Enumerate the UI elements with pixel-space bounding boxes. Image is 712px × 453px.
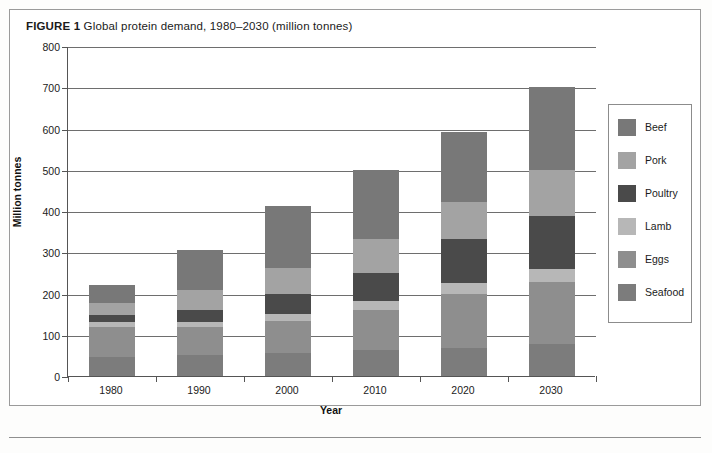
x-axis-tick <box>420 376 421 382</box>
bar-group[interactable] <box>177 46 223 376</box>
bar-group[interactable] <box>89 46 135 376</box>
bar-segment-pork[interactable] <box>441 202 487 240</box>
x-axis-tick <box>244 376 245 382</box>
figure-number: FIGURE 1 <box>26 20 80 32</box>
bar-segment-poultry[interactable] <box>89 315 135 322</box>
bar-segment-lamb[interactable] <box>441 283 487 295</box>
gridline <box>68 130 596 131</box>
y-axis-tick-label: 500 <box>42 165 60 177</box>
gridline <box>68 212 596 213</box>
bar-segment-lamb[interactable] <box>177 322 223 327</box>
bottom-divider <box>9 437 701 438</box>
figure-title: FIGURE 1 Global protein demand, 1980–203… <box>26 20 352 32</box>
legend-item-lamb[interactable]: Lamb <box>618 217 671 235</box>
y-axis-tick <box>62 295 68 296</box>
bar-segment-poultry[interactable] <box>441 239 487 282</box>
bar-segment-pork[interactable] <box>265 268 311 294</box>
bar-group[interactable] <box>265 46 311 376</box>
figure-container: FIGURE 1 Global protein demand, 1980–203… <box>0 0 712 453</box>
bar-segment-lamb[interactable] <box>265 314 311 321</box>
bar-segment-beef[interactable] <box>89 285 135 304</box>
x-axis-tick-label: 2030 <box>511 384 591 396</box>
bar-segment-poultry[interactable] <box>529 216 575 269</box>
x-axis-tick-label: 1980 <box>71 384 151 396</box>
bar-segment-pork[interactable] <box>89 303 135 315</box>
bar-segment-lamb[interactable] <box>89 322 135 326</box>
legend-swatch-icon <box>618 152 636 169</box>
legend-label: Eggs <box>645 253 669 265</box>
bar-segment-poultry[interactable] <box>353 273 399 301</box>
bar-group[interactable] <box>353 46 399 376</box>
x-axis-tick <box>508 376 509 382</box>
legend-label: Beef <box>645 121 667 133</box>
x-axis-tick <box>156 376 157 382</box>
y-axis-tick-label: 600 <box>42 124 60 136</box>
bar-segment-poultry[interactable] <box>265 294 311 314</box>
x-axis-tick-label: 2000 <box>247 384 327 396</box>
y-axis-tick <box>62 171 68 172</box>
y-axis-tick-labels: 0100200300400500600700800 <box>22 47 60 377</box>
legend-label: Seafood <box>645 286 684 298</box>
legend-swatch-icon <box>618 284 636 301</box>
gridline <box>68 171 596 172</box>
bar-segment-eggs[interactable] <box>353 310 399 350</box>
y-axis-tick <box>62 336 68 337</box>
bar-segment-beef[interactable] <box>353 170 399 239</box>
bar-segment-beef[interactable] <box>177 250 223 290</box>
legend-swatch-icon <box>618 185 636 202</box>
x-axis-tick-label: 1990 <box>159 384 239 396</box>
bar-segment-seafood[interactable] <box>529 344 575 376</box>
legend-item-eggs[interactable]: Eggs <box>618 250 669 268</box>
bar-segment-seafood[interactable] <box>441 348 487 376</box>
y-axis-tick-label: 400 <box>42 206 60 218</box>
y-axis-tick-label: 200 <box>42 289 60 301</box>
bar-segment-lamb[interactable] <box>529 269 575 282</box>
bar-segment-poultry[interactable] <box>177 310 223 322</box>
x-axis-tick <box>332 376 333 382</box>
gridline <box>68 47 596 48</box>
y-axis-tick-label: 100 <box>42 330 60 342</box>
bar-segment-seafood[interactable] <box>353 350 399 376</box>
legend-label: Pork <box>645 154 667 166</box>
gridline <box>68 88 596 89</box>
legend-item-seafood[interactable]: Seafood <box>618 283 684 301</box>
bar-group[interactable] <box>529 46 575 376</box>
y-axis-tick-label: 0 <box>54 371 60 383</box>
y-axis-tick <box>62 253 68 254</box>
bar-segment-seafood[interactable] <box>89 357 135 376</box>
y-axis-tick <box>62 88 68 89</box>
legend-swatch-icon <box>618 251 636 268</box>
x-axis-tick-label: 2010 <box>335 384 415 396</box>
bar-segment-pork[interactable] <box>353 239 399 273</box>
bar-segment-seafood[interactable] <box>177 355 223 376</box>
bar-segment-lamb[interactable] <box>353 301 399 310</box>
legend-swatch-icon <box>618 218 636 235</box>
y-axis-tick <box>62 130 68 131</box>
y-axis-tick-label: 800 <box>42 41 60 53</box>
legend-item-beef[interactable]: Beef <box>618 118 667 136</box>
bar-segment-eggs[interactable] <box>529 282 575 344</box>
plot-area <box>67 47 595 377</box>
x-axis-title: Year <box>67 404 595 416</box>
bar-segment-pork[interactable] <box>529 170 575 216</box>
y-axis-tick-label: 700 <box>42 82 60 94</box>
gridline <box>68 253 596 254</box>
bar-segment-beef[interactable] <box>441 132 487 202</box>
bar-group[interactable] <box>441 46 487 376</box>
y-axis-tick <box>62 212 68 213</box>
legend-label: Poultry <box>645 187 678 199</box>
legend-label: Lamb <box>645 220 671 232</box>
bar-segment-eggs[interactable] <box>177 327 223 356</box>
bar-segment-eggs[interactable] <box>89 327 135 358</box>
legend-item-pork[interactable]: Pork <box>618 151 667 169</box>
bar-segment-beef[interactable] <box>265 206 311 269</box>
gridline <box>68 295 596 296</box>
bar-segment-eggs[interactable] <box>265 321 311 353</box>
x-axis-tick-label: 2020 <box>423 384 503 396</box>
bar-segment-seafood[interactable] <box>265 353 311 376</box>
bar-segment-eggs[interactable] <box>441 294 487 348</box>
legend-item-poultry[interactable]: Poultry <box>618 184 678 202</box>
bar-segment-beef[interactable] <box>529 87 575 170</box>
bar-segment-pork[interactable] <box>177 290 223 310</box>
x-axis-tick <box>68 376 69 382</box>
